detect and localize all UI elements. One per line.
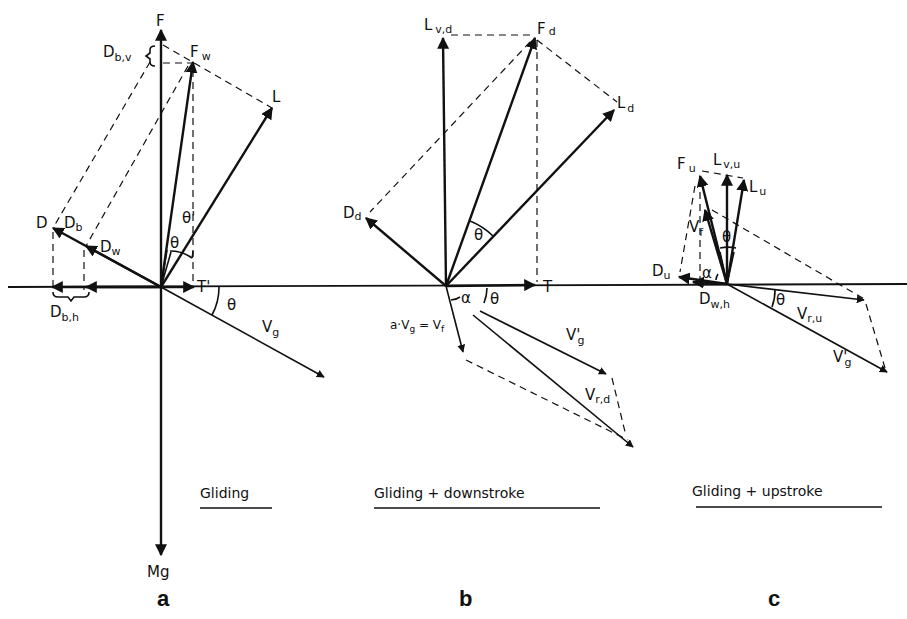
brace-Dbh bbox=[53, 292, 89, 301]
caption-gliding-upstroke: Gliding + upstroke bbox=[692, 483, 823, 499]
label-theta2-b: θ bbox=[490, 290, 499, 308]
vector-Vg bbox=[161, 287, 324, 377]
label-Vf-c: Vf bbox=[689, 218, 704, 239]
vector-Fd bbox=[446, 38, 535, 286]
panel-a: F Fw L Db,v D Db Dw Db,h θ θ' T' θ Vg Mg… bbox=[36, 12, 324, 611]
label-Lu: Lu bbox=[749, 178, 766, 198]
label-alpha-b: α bbox=[461, 289, 471, 307]
dash-Dbv-D bbox=[53, 62, 150, 228]
dash-Fd-Dd bbox=[370, 42, 530, 212]
label-Lvu: Lv,u bbox=[713, 151, 740, 171]
arc-theta2-c bbox=[772, 289, 775, 307]
dash-Fd-Ld bbox=[537, 40, 617, 102]
dash-Vf-Vru bbox=[712, 210, 866, 300]
panel-letter-b: b bbox=[459, 586, 472, 611]
panel-b: Lv,d Fd Ld Dd θ T α θ a·Vg = Vf V'g Vr,d… bbox=[343, 16, 634, 611]
label-theta-b: θ bbox=[474, 226, 483, 244]
label-theta-glide: θ bbox=[227, 296, 236, 314]
caption-gliding-downstroke: Gliding + downstroke bbox=[374, 485, 525, 501]
label-theta-c: θ bbox=[722, 228, 731, 246]
dash-Fu-Lu bbox=[702, 171, 743, 178]
label-Dbh: Db,h bbox=[50, 303, 79, 324]
vector-T bbox=[446, 285, 535, 286]
label-Vru: Vr,u bbox=[797, 305, 822, 325]
label-Mg: Mg bbox=[147, 563, 169, 581]
label-Vg-prime: V'g bbox=[566, 326, 584, 347]
label-theta-prime: θ' bbox=[182, 209, 195, 227]
vector-Lvd bbox=[443, 38, 446, 286]
vector-Vg-prime-c bbox=[727, 284, 887, 372]
panel-letter-c: c bbox=[768, 586, 780, 611]
arc-alpha-b bbox=[451, 297, 460, 300]
label-Dbv: Db,v bbox=[103, 43, 132, 64]
label-alpha-c: α bbox=[702, 264, 712, 282]
label-Vg: Vg bbox=[262, 318, 279, 339]
label-Vrd: Vr,d bbox=[585, 386, 610, 406]
label-Db: Db bbox=[64, 214, 83, 234]
dash-Vg-Vrd bbox=[612, 378, 626, 436]
vector-Dw bbox=[86, 246, 161, 287]
label-theta: θ bbox=[170, 234, 179, 252]
label-theta2-c: θ bbox=[776, 291, 785, 309]
brace-Dbv bbox=[146, 46, 155, 66]
vector-Vg-prime bbox=[480, 311, 606, 374]
caption-gliding: Gliding bbox=[200, 485, 249, 501]
label-Du: Du bbox=[652, 262, 671, 282]
dash-F-L bbox=[163, 45, 272, 108]
label-Vf-equation: a·Vg = Vf bbox=[390, 318, 445, 334]
label-Fd: Fd bbox=[537, 20, 556, 38]
label-Dd: Dd bbox=[343, 204, 362, 223]
panel-letter-a: a bbox=[157, 586, 170, 611]
label-D: D bbox=[36, 214, 48, 232]
arc-alpha-c bbox=[716, 274, 718, 280]
label-Fw: Fw bbox=[190, 43, 211, 63]
label-L: L bbox=[272, 88, 281, 106]
label-Ld: Ld bbox=[617, 94, 634, 115]
vector-Vrd bbox=[473, 315, 633, 447]
panel-c: Fu Lv,u Lu Vf θ Du α Dw,h θ Vr,u V'g Gli… bbox=[652, 151, 887, 611]
label-Fu: Fu bbox=[677, 155, 696, 175]
label-Dwh: Dw,h bbox=[699, 290, 730, 311]
label-Dw: Dw bbox=[100, 238, 121, 258]
arc-theta-prime bbox=[192, 251, 193, 258]
dash-Vru-Vg bbox=[866, 304, 885, 368]
force-vector-diagram: F Fw L Db,v D Db Dw Db,h θ θ' T' θ Vg Mg… bbox=[0, 0, 907, 619]
vector-Dd bbox=[366, 218, 446, 286]
arc-theta-glide bbox=[212, 287, 219, 315]
dash-Fw-Dw bbox=[86, 66, 188, 246]
label-T: T bbox=[542, 278, 553, 296]
label-Lvd: Lv,d bbox=[424, 16, 452, 36]
label-T-prime: T' bbox=[196, 278, 210, 296]
arc-theta2-b bbox=[484, 288, 487, 303]
vector-L bbox=[161, 108, 272, 287]
label-F: F bbox=[156, 12, 165, 30]
arc-theta-c bbox=[720, 247, 736, 248]
vector-Ld bbox=[446, 110, 614, 286]
vector-Vru bbox=[727, 284, 864, 300]
